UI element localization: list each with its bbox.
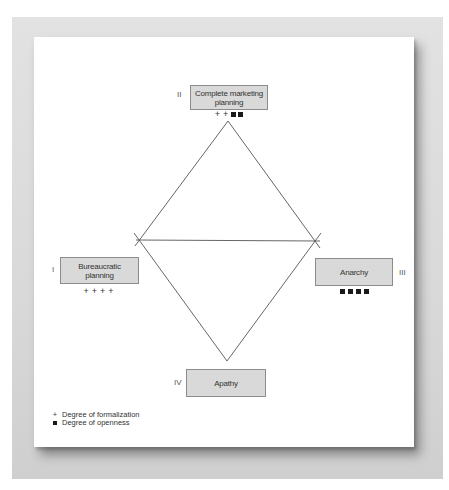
- plus-icon: +: [215, 110, 221, 119]
- node-bureaucratic-planning: Bureaucratic planning: [60, 257, 139, 284]
- node-label-line: Bureaucratic: [78, 262, 121, 271]
- plus-icon: +: [52, 411, 58, 419]
- legend-label: Degree of openness: [62, 419, 130, 427]
- node-roman-iii: III: [399, 268, 406, 277]
- node-anarchy: Anarchy: [315, 258, 393, 286]
- legend: + Degree of formalization Degree of open…: [52, 411, 140, 427]
- plus-icon: +: [108, 287, 114, 296]
- plus-icon: +: [100, 287, 106, 296]
- legend-item-openness: Degree of openness: [52, 419, 140, 427]
- node-label-line: planning: [195, 98, 263, 107]
- square-icon: [356, 289, 361, 294]
- node-label-line: Complete marketing: [195, 89, 263, 98]
- node-iii-symbols: [325, 287, 383, 296]
- node-label-line: Anarchy: [340, 268, 368, 277]
- plus-icon: +: [92, 287, 98, 296]
- square-icon: [348, 289, 353, 294]
- node-roman-ii: II: [177, 90, 181, 99]
- edge-left-right: [136, 240, 320, 241]
- node-ii-symbols: + +: [200, 110, 258, 119]
- edge-left-bottom: [134, 233, 227, 361]
- square-icon: [364, 289, 369, 294]
- node-label-line: Apathy: [214, 379, 238, 388]
- node-complete-marketing-planning: Complete marketing planning: [190, 85, 268, 110]
- square-icon: [231, 112, 236, 117]
- node-i-symbols: + + + +: [70, 287, 128, 296]
- node-label-line: planning: [78, 271, 121, 280]
- square-icon: [340, 289, 345, 294]
- edge-top-right: [228, 121, 320, 248]
- node-apathy: Apathy: [186, 369, 266, 397]
- node-roman-i: I: [52, 265, 54, 274]
- plus-icon: +: [223, 110, 229, 119]
- square-icon: [52, 421, 58, 425]
- edge-top-left: [135, 121, 228, 246]
- plus-icon: +: [83, 287, 89, 296]
- node-roman-iv: IV: [174, 378, 182, 387]
- edge-right-bottom: [227, 233, 321, 361]
- square-icon: [238, 112, 243, 117]
